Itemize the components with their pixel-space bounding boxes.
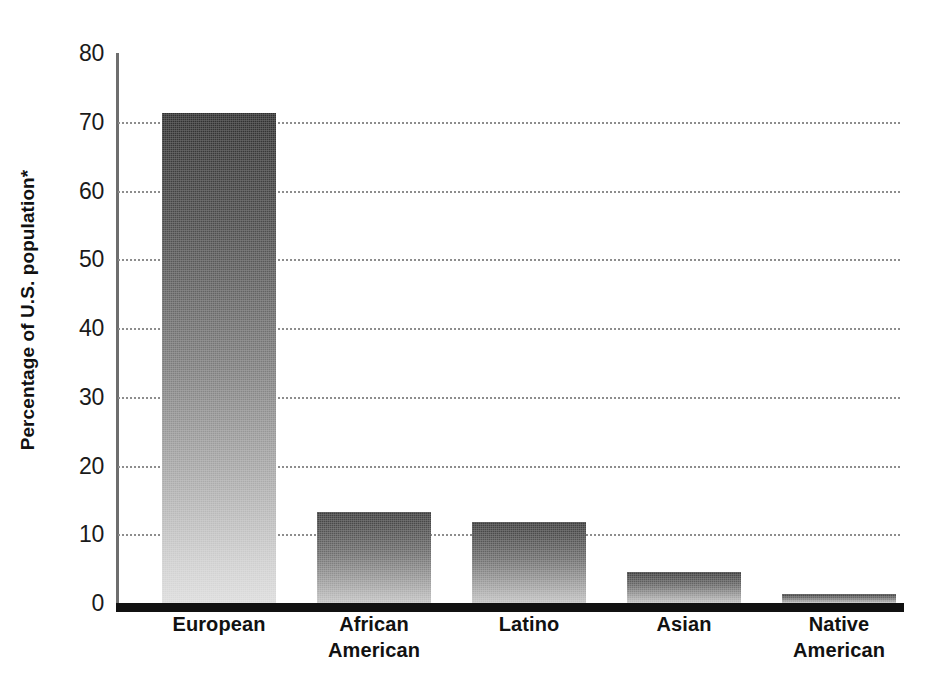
y-axis-title-text: Percentage of U.S. population* bbox=[17, 170, 39, 451]
x-label-line: American bbox=[772, 638, 906, 664]
y-tick-label: 50 bbox=[79, 246, 104, 273]
bar-african-american[interactable] bbox=[317, 512, 431, 603]
x-axis-line bbox=[116, 603, 904, 612]
y-tick-label: 20 bbox=[79, 453, 104, 480]
x-label-line: Latino bbox=[462, 612, 596, 638]
bar-texture bbox=[162, 113, 276, 603]
x-label-line: Native bbox=[772, 612, 906, 638]
x-label-african-american: African American bbox=[307, 612, 441, 663]
bar-native-american[interactable] bbox=[782, 594, 896, 603]
bar-texture bbox=[782, 594, 896, 603]
x-axis-category-labels: European African American Latino Asian N… bbox=[118, 612, 900, 692]
plot-area bbox=[118, 53, 900, 603]
y-tick-label: 0 bbox=[92, 590, 105, 617]
y-axis-tick-labels: 80 70 60 50 40 30 20 10 0 bbox=[58, 0, 114, 695]
y-tick-label: 60 bbox=[79, 178, 104, 205]
bar-series bbox=[118, 53, 900, 603]
bar-slot bbox=[162, 53, 276, 603]
y-tick-label: 40 bbox=[79, 315, 104, 342]
bar-latino[interactable] bbox=[472, 522, 586, 603]
y-axis-title: Percentage of U.S. population* bbox=[0, 0, 56, 620]
bar-asian[interactable] bbox=[627, 572, 741, 603]
bar-european[interactable] bbox=[162, 113, 276, 603]
y-tick-label: 30 bbox=[79, 384, 104, 411]
x-label-european: European bbox=[152, 612, 286, 638]
x-label-native-american: Native American bbox=[772, 612, 906, 663]
x-label-line: European bbox=[152, 612, 286, 638]
bar-slot bbox=[472, 53, 586, 603]
bar-texture bbox=[627, 572, 741, 603]
bar-chart-figure: Percentage of U.S. population* 80 70 60 … bbox=[0, 0, 935, 695]
y-tick-label: 80 bbox=[79, 40, 104, 67]
y-tick-label: 70 bbox=[79, 109, 104, 136]
x-label-line: American bbox=[307, 638, 441, 664]
bar-texture bbox=[472, 522, 586, 603]
y-tick-label: 10 bbox=[79, 521, 104, 548]
bar-slot bbox=[627, 53, 741, 603]
x-label-asian: Asian bbox=[617, 612, 751, 638]
x-label-line: African bbox=[307, 612, 441, 638]
bar-slot bbox=[782, 53, 896, 603]
x-label-latino: Latino bbox=[462, 612, 596, 638]
bar-texture bbox=[317, 512, 431, 603]
x-label-line: Asian bbox=[617, 612, 751, 638]
bar-slot bbox=[317, 53, 431, 603]
